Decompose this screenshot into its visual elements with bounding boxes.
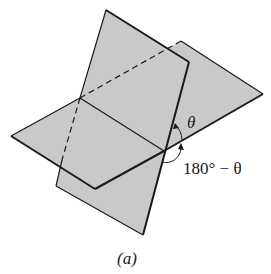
dihedral-angle-diagram: θ 180° − θ (a): [0, 0, 271, 274]
theta-label: θ: [187, 113, 195, 132]
supplement-arrowhead-icon: [178, 143, 184, 150]
supplement-label: 180° − θ: [183, 159, 242, 178]
figure-caption: (a): [117, 249, 137, 268]
